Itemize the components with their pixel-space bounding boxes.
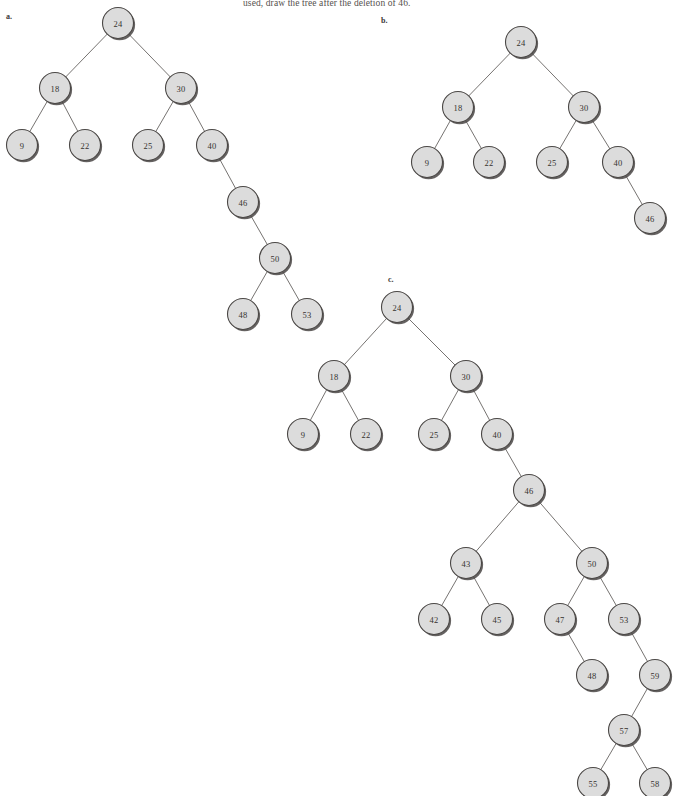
tree-edge bbox=[344, 318, 387, 366]
node-value-label: 53 bbox=[620, 615, 629, 625]
node-value-label: 57 bbox=[620, 726, 629, 736]
node-value-label: 9 bbox=[20, 141, 24, 151]
tree-node: 50 bbox=[260, 243, 293, 276]
tree-node: 9 bbox=[288, 419, 321, 452]
tree-node: 9 bbox=[412, 147, 445, 180]
tree-edge bbox=[559, 120, 576, 150]
figure-b-edges bbox=[434, 52, 643, 205]
tree-node: 40 bbox=[197, 130, 230, 163]
tree-node: 50 bbox=[577, 548, 610, 581]
tree-node: 45 bbox=[482, 604, 515, 637]
tree-node: 30 bbox=[451, 361, 484, 394]
node-value-label: 9 bbox=[425, 158, 429, 168]
tree-node: 25 bbox=[133, 130, 166, 163]
node-value-label: 55 bbox=[589, 779, 598, 789]
tree-edge bbox=[567, 576, 585, 607]
tree-edge bbox=[310, 389, 327, 421]
tree-node: 42 bbox=[419, 604, 452, 637]
tree-node: 24 bbox=[382, 292, 415, 325]
node-value-label: 9 bbox=[301, 430, 305, 440]
node-value-label: 25 bbox=[548, 158, 557, 168]
tree-edge bbox=[531, 52, 574, 96]
node-value-label: 30 bbox=[462, 372, 471, 382]
node-value-label: 25 bbox=[430, 430, 439, 440]
tree-node: 30 bbox=[569, 92, 602, 125]
tree-edge bbox=[631, 688, 648, 718]
node-value-label: 18 bbox=[454, 103, 463, 113]
node-value-label: 18 bbox=[330, 372, 339, 382]
figure-c: 2418309222540464350424547534859575558 bbox=[288, 292, 673, 796]
node-value-label: 45 bbox=[493, 615, 502, 625]
figure-page: used, draw the tree after the deletion o… bbox=[0, 0, 677, 796]
tree-node: 18 bbox=[319, 361, 352, 394]
tree-node: 40 bbox=[482, 419, 515, 452]
tree-edge bbox=[468, 52, 511, 96]
node-value-label: 48 bbox=[588, 671, 597, 681]
tree-node: 46 bbox=[228, 187, 261, 220]
tree-node: 22 bbox=[351, 419, 384, 452]
tree-node: 59 bbox=[640, 660, 673, 693]
tree-node: 24 bbox=[103, 8, 136, 41]
tree-edge bbox=[567, 632, 585, 663]
tree-node: 30 bbox=[166, 73, 199, 106]
figure-c-label: c. bbox=[388, 275, 394, 284]
tree-node: 25 bbox=[537, 147, 570, 180]
tree-node: 18 bbox=[40, 73, 73, 106]
node-value-label: 47 bbox=[556, 615, 565, 625]
tree-edge bbox=[155, 101, 173, 133]
tree-edge bbox=[188, 101, 205, 133]
node-value-label: 24 bbox=[393, 303, 402, 313]
node-value-label: 50 bbox=[588, 559, 597, 569]
figure-a-label: a. bbox=[6, 12, 12, 21]
tree-node: 48 bbox=[577, 660, 610, 693]
tree-node: 55 bbox=[578, 768, 611, 796]
tree-node: 57 bbox=[609, 715, 642, 748]
tree-edge bbox=[65, 33, 108, 77]
node-value-label: 43 bbox=[462, 559, 471, 569]
node-value-label: 46 bbox=[646, 214, 655, 224]
node-value-label: 25 bbox=[144, 141, 153, 151]
tree-edge bbox=[631, 632, 648, 663]
node-value-label: 40 bbox=[208, 141, 217, 151]
tree-edge bbox=[407, 317, 456, 366]
node-value-label: 40 bbox=[493, 430, 502, 440]
tree-node: 53 bbox=[292, 299, 325, 332]
tree-edge bbox=[282, 271, 300, 302]
figure-a-edges bbox=[29, 33, 300, 301]
tree-edge bbox=[625, 175, 643, 206]
tree-edge bbox=[341, 389, 359, 422]
tree-edge bbox=[473, 576, 490, 607]
node-value-label: 59 bbox=[651, 671, 660, 681]
node-value-label: 53 bbox=[303, 310, 312, 320]
tree-node: 46 bbox=[635, 203, 668, 236]
tree-edge bbox=[592, 119, 611, 149]
tree-edge bbox=[441, 576, 459, 607]
node-value-label: 58 bbox=[651, 779, 660, 789]
tree-edge bbox=[250, 271, 268, 302]
figure-a: 241830922254046504853 bbox=[7, 8, 325, 332]
node-value-label: 42 bbox=[430, 615, 439, 625]
tree-node: 43 bbox=[451, 548, 484, 581]
tree-node: 22 bbox=[70, 130, 103, 163]
node-value-label: 22 bbox=[81, 141, 90, 151]
node-value-label: 18 bbox=[51, 84, 60, 94]
tree-node: 9 bbox=[7, 130, 40, 163]
tree-node: 25 bbox=[419, 419, 452, 452]
tree-edge bbox=[600, 743, 616, 771]
tree-edge bbox=[62, 101, 79, 132]
node-value-label: 40 bbox=[614, 158, 623, 168]
tree-edge bbox=[631, 743, 647, 771]
tree-edge bbox=[128, 33, 171, 77]
tree-node: 47 bbox=[545, 604, 578, 637]
tree-node: 24 bbox=[506, 27, 539, 60]
binary-search-tree-diagrams: 2418309222540465048532418309222540462418… bbox=[0, 0, 677, 796]
tree-edge bbox=[473, 389, 490, 421]
tree-node: 58 bbox=[640, 768, 673, 796]
tree-node: 53 bbox=[609, 604, 642, 637]
tree-edge bbox=[465, 120, 482, 150]
tree-edge bbox=[599, 576, 617, 607]
node-value-label: 24 bbox=[114, 19, 123, 29]
node-value-label: 46 bbox=[525, 486, 534, 496]
tree-node: 40 bbox=[603, 147, 636, 180]
tree-edge bbox=[434, 120, 451, 150]
